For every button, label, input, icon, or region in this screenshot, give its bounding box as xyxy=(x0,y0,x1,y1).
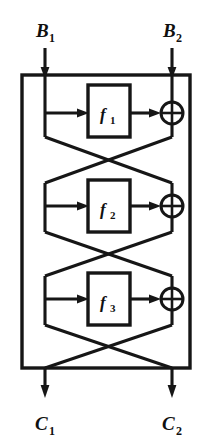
round-3: f 3 xyxy=(45,273,183,368)
output-label-c1-base: C xyxy=(35,413,48,434)
output-arrow-c1 xyxy=(41,368,50,398)
input-label-b2-base: B xyxy=(162,20,176,41)
output-label-c1: C 1 xyxy=(35,413,55,438)
input-label-b1-subscript: 1 xyxy=(49,31,55,45)
output-label-c2: C 2 xyxy=(162,413,182,438)
input-label-b1-base: B xyxy=(35,20,49,41)
function-box-f3-subscript: 3 xyxy=(110,302,116,314)
round-1: f 1 xyxy=(45,85,183,183)
function-box-f1-subscript: 1 xyxy=(110,114,116,126)
input-label-b1: B 1 xyxy=(35,20,55,45)
round-2-output-wire xyxy=(130,202,161,211)
output-arrow-c2-head xyxy=(168,385,177,398)
round-1-feed-wire xyxy=(45,109,89,118)
input-label-b2-subscript: 2 xyxy=(176,31,182,45)
output-label-c1-subscript: 1 xyxy=(49,424,55,438)
output-arrow-c2 xyxy=(168,368,177,398)
input-label-b2: B 2 xyxy=(162,20,182,45)
round-3-output-wire xyxy=(130,295,161,304)
function-box-f2 xyxy=(88,180,130,232)
feistel-network-figure: B 1 B 2 xyxy=(0,0,212,443)
round-1-output-wire xyxy=(130,109,161,118)
output-label-c2-base: C xyxy=(162,413,175,434)
feistel-diagram-root: B 1 B 2 xyxy=(0,0,212,443)
round-2: f 2 xyxy=(45,180,183,276)
output-arrow-c1-head xyxy=(41,385,50,398)
round-3-output-arrowhead xyxy=(149,295,161,304)
xor-gate-2 xyxy=(161,195,183,217)
xor-gate-3 xyxy=(161,288,183,310)
function-box-f3 xyxy=(88,273,130,325)
round-2-feed-wire xyxy=(45,202,89,211)
round-3-feed-wire xyxy=(45,295,89,304)
function-box-f1 xyxy=(88,85,130,137)
output-label-c2-subscript: 2 xyxy=(176,424,182,438)
round-1-output-arrowhead xyxy=(149,109,161,118)
round-2-output-arrowhead xyxy=(149,202,161,211)
function-box-f2-subscript: 2 xyxy=(110,209,116,221)
xor-gate-1 xyxy=(161,102,183,124)
